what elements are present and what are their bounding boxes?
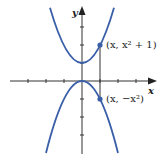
upper-point-marker — [97, 42, 102, 47]
upper-point-label: (x, x² + 1) — [106, 39, 157, 50]
y-axis-label: y — [71, 7, 79, 18]
graph-figure: x y (x, x² + 1) (x, −x²) — [0, 0, 162, 160]
y-axis-arrow-icon — [79, 6, 86, 15]
x-axis-arrow-icon — [148, 78, 157, 85]
y-axis: y — [71, 6, 86, 154]
lower-point-marker — [97, 96, 102, 101]
x-axis-label: x — [147, 85, 155, 96]
lower-point-label: (x, −x²) — [106, 93, 144, 104]
